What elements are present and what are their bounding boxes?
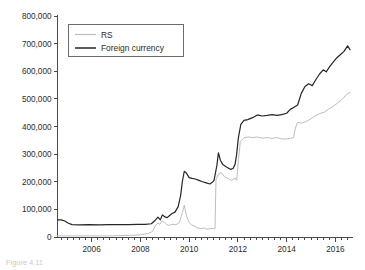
legend-item-foreign-currency-label: Foreign currency bbox=[101, 43, 165, 53]
series-line-rs bbox=[58, 93, 351, 236]
x-axis-tick-labels: 200620082010201220142016 bbox=[83, 245, 345, 254]
line-chart: 0100,000200,000300,000400,000500,000600,… bbox=[0, 0, 365, 270]
data-series-layer bbox=[58, 46, 351, 236]
legend-item-rs-label: RS bbox=[101, 30, 113, 40]
y-axis-tick-label: 0 bbox=[47, 233, 52, 242]
series-line-foreign-currency bbox=[58, 46, 351, 225]
y-axis-tick-label: 200,000 bbox=[22, 178, 52, 187]
y-axis-tick-label: 300,000 bbox=[22, 150, 52, 159]
figure-caption: Figure 4.11 bbox=[6, 259, 43, 266]
x-axis-tick-label: 2010 bbox=[180, 245, 199, 254]
x-axis-tick-label: 2014 bbox=[278, 245, 297, 254]
chart-legend: RSForeign currency bbox=[68, 25, 183, 57]
x-axis-tick-label: 2016 bbox=[326, 245, 345, 254]
y-axis-tick-label: 100,000 bbox=[22, 205, 52, 214]
x-axis-tick-label: 2008 bbox=[131, 245, 150, 254]
y-axis-tick-labels: 0100,000200,000300,000400,000500,000600,… bbox=[22, 12, 52, 242]
figure-container: 0100,000200,000300,000400,000500,000600,… bbox=[0, 0, 365, 270]
y-axis-tick-label: 800,000 bbox=[22, 12, 52, 21]
y-axis-tick-label: 500,000 bbox=[22, 95, 52, 104]
x-axis-tick-label: 2006 bbox=[83, 245, 102, 254]
y-axis-tick-label: 600,000 bbox=[22, 67, 52, 76]
x-axis-tick-label: 2012 bbox=[229, 245, 248, 254]
y-axis-tick-label: 700,000 bbox=[22, 40, 52, 49]
y-axis-tick-label: 400,000 bbox=[22, 123, 52, 132]
